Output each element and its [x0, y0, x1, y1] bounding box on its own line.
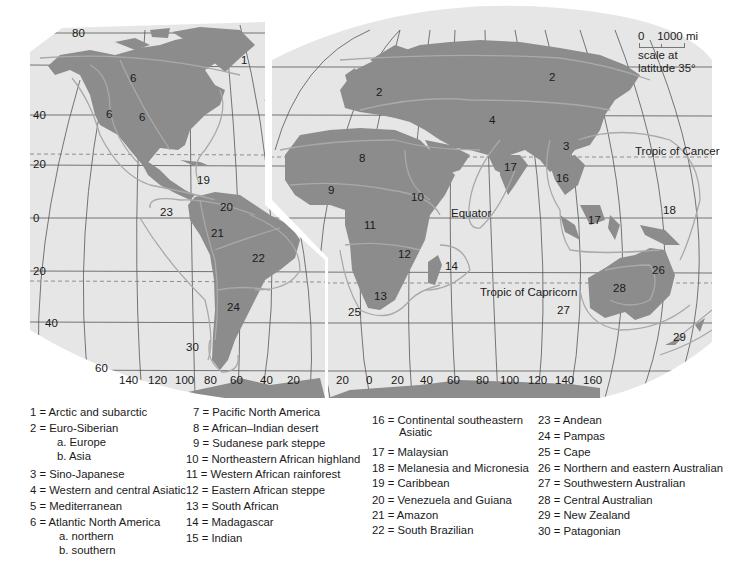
svg-text:100: 100: [175, 374, 194, 386]
legend-item: 21 = Amazon: [372, 509, 438, 522]
map-scale: 0 1000 mi scale at latitude 35°: [638, 30, 698, 75]
svg-text:40: 40: [45, 317, 58, 329]
svg-text:20: 20: [33, 265, 46, 277]
svg-text:24: 24: [227, 301, 240, 313]
legend-item: 18 = Melanesia and Micronesia: [372, 462, 529, 475]
svg-text:20: 20: [220, 201, 233, 213]
legend-item: 28 = Central Australian: [538, 494, 653, 507]
legend-item: 15 = Indian: [186, 532, 242, 545]
svg-text:18: 18: [663, 204, 676, 216]
svg-text:60: 60: [447, 374, 460, 386]
legend-subitem: Asiatic: [399, 426, 432, 439]
svg-text:3: 3: [563, 140, 569, 152]
legend-item: 12 = Eastern African steppe: [186, 484, 325, 497]
svg-text:0: 0: [366, 374, 372, 386]
svg-text:27: 27: [557, 304, 570, 316]
svg-text:40: 40: [260, 374, 273, 386]
legend-item: 2 = Euro-Siberian: [30, 422, 118, 435]
svg-text:2: 2: [549, 71, 555, 83]
legend-item: 24 = Pampas: [538, 430, 605, 443]
svg-text:120: 120: [528, 374, 547, 386]
svg-text:8: 8: [359, 152, 365, 164]
svg-text:16: 16: [556, 172, 569, 184]
scale-note: scale at: [638, 49, 698, 62]
svg-text:11: 11: [364, 219, 376, 231]
svg-text:22: 22: [252, 252, 265, 264]
svg-text:21: 21: [211, 227, 224, 239]
svg-text:6: 6: [139, 111, 145, 123]
svg-text:6: 6: [106, 108, 112, 120]
svg-text:6: 6: [130, 72, 136, 84]
svg-text:80: 80: [476, 374, 489, 386]
svg-text:20: 20: [33, 158, 46, 170]
svg-text:80: 80: [204, 374, 217, 386]
svg-text:14: 14: [445, 260, 458, 272]
svg-text:80: 80: [72, 27, 85, 39]
legend-item: 4 = Western and central Asiatic: [30, 484, 186, 497]
svg-text:100: 100: [500, 374, 519, 386]
legend-item: 7 = Pacific North America: [193, 406, 320, 419]
legend-item: 6 = Atlantic North America: [30, 516, 160, 529]
legend-item: 23 = Andean: [538, 414, 602, 427]
legend-item: 13 = South African: [186, 500, 279, 513]
legend-item: 16 = Continental southeastern: [372, 414, 523, 427]
legend-item: 22 = South Brazilian: [372, 524, 473, 537]
legend-item: 8 = African–Indian desert: [193, 422, 318, 435]
svg-text:17: 17: [588, 214, 601, 226]
svg-text:28: 28: [613, 282, 626, 294]
svg-text:12: 12: [398, 248, 411, 260]
svg-text:0: 0: [33, 212, 39, 224]
svg-text:25: 25: [348, 306, 361, 318]
legend-subitem: b. southern: [59, 544, 116, 557]
svg-text:60: 60: [95, 362, 108, 374]
svg-text:40: 40: [420, 374, 433, 386]
tropic-of-capricorn-label: Tropic of Capricorn: [480, 286, 577, 298]
legend-item: 11 = Western African rainforest: [186, 468, 340, 481]
legend-subitem: a. northern: [59, 530, 114, 543]
equator-label: Equator: [451, 207, 491, 219]
legend-item: 20 = Venezuela and Guiana: [372, 494, 512, 507]
legend-subitem: a. Europe: [57, 436, 106, 449]
svg-text:140: 140: [119, 374, 138, 386]
legend-item: 27 = Southwestern Australian: [538, 477, 685, 490]
svg-text:1: 1: [241, 54, 247, 66]
svg-text:140: 140: [555, 374, 574, 386]
svg-text:60: 60: [230, 374, 243, 386]
scale-distance: 0 1000 mi: [638, 30, 698, 43]
svg-text:160: 160: [583, 374, 602, 386]
svg-text:4: 4: [489, 114, 496, 126]
region-legend: 1 = Arctic and subarctic 2 = Euro-Siberi…: [0, 406, 747, 565]
svg-text:40: 40: [33, 109, 46, 121]
legend-item: 5 = Mediterranean: [30, 500, 122, 513]
legend-item: 30 = Patagonian: [538, 525, 621, 538]
scale-bar: [639, 43, 685, 48]
svg-text:17: 17: [504, 161, 517, 173]
svg-text:2: 2: [376, 86, 382, 98]
legend-item: 9 = Sudanese park steppe: [193, 437, 325, 450]
legend-item: 3 = Sino-Japanese: [30, 468, 125, 481]
svg-text:26: 26: [652, 264, 665, 276]
floristic-regions-map: 80 40 20 0 20 40 60 140 120 100 80 60 40…: [0, 0, 747, 400]
svg-text:20: 20: [287, 374, 300, 386]
svg-text:23: 23: [160, 206, 173, 218]
svg-text:10: 10: [411, 191, 424, 203]
legend-subitem: b. Asia: [57, 450, 91, 463]
svg-text:13: 13: [374, 290, 387, 302]
legend-item: 14 = Madagascar: [186, 516, 274, 529]
tropic-of-cancer-label: Tropic of Cancer: [635, 145, 720, 157]
svg-text:20: 20: [391, 374, 404, 386]
svg-text:29: 29: [673, 331, 686, 343]
legend-item: 25 = Cape: [538, 446, 590, 459]
svg-text:120: 120: [148, 374, 167, 386]
svg-text:9: 9: [328, 184, 334, 196]
svg-text:20: 20: [336, 374, 349, 386]
scale-note-latitude: latitude 35°: [638, 62, 698, 75]
legend-item: 17 = Malaysian: [372, 446, 448, 459]
legend-item: 26 = Northern and eastern Australian: [538, 462, 723, 475]
legend-item: 1 = Arctic and subarctic: [30, 406, 147, 419]
legend-item: 29 = New Zealand: [538, 509, 630, 522]
legend-item: 19 = Caribbean: [372, 477, 450, 490]
legend-item: 10 = Northeastern African highland: [186, 453, 360, 466]
svg-text:30: 30: [186, 341, 199, 353]
svg-text:19: 19: [197, 174, 210, 186]
